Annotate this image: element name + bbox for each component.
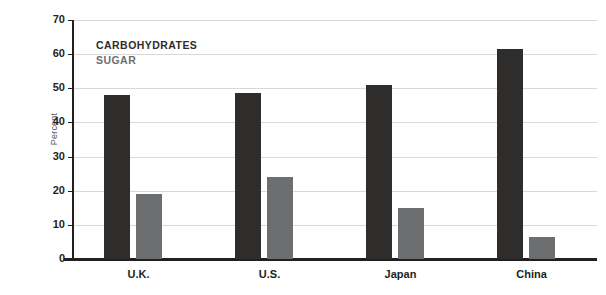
y-axis-tick-label: 40 bbox=[39, 116, 65, 127]
y-axis-tick-mark bbox=[68, 157, 74, 158]
y-axis-tick-mark bbox=[68, 88, 74, 89]
y-axis-tick-mark bbox=[68, 54, 74, 55]
y-axis-tick-mark bbox=[68, 259, 74, 260]
y-axis-line bbox=[72, 20, 74, 259]
legend: CARBOHYDRATES SUGAR bbox=[96, 38, 197, 68]
legend-item-sugar: SUGAR bbox=[96, 53, 197, 68]
y-axis-tick-label: 30 bbox=[39, 151, 65, 162]
gridline bbox=[73, 20, 597, 21]
x-axis-label-china: China bbox=[466, 268, 597, 280]
x-axis-label-uk: U.K. bbox=[73, 268, 204, 280]
x-axis-label-us: U.S. bbox=[204, 268, 335, 280]
y-axis-tick-label: 10 bbox=[39, 219, 65, 230]
bar-chart: Percent 010203040506070 U.K.U.S.JapanChi… bbox=[0, 0, 606, 295]
bar-sugar-china bbox=[529, 237, 555, 259]
bar-carbohydrates-us bbox=[235, 93, 261, 259]
y-axis-tick-mark bbox=[68, 122, 74, 123]
y-axis-tick-label: 50 bbox=[39, 82, 65, 93]
bar-sugar-japan bbox=[398, 208, 424, 259]
x-axis-label-japan: Japan bbox=[335, 268, 466, 280]
bar-sugar-uk bbox=[136, 194, 162, 259]
legend-item-carbohydrates: CARBOHYDRATES bbox=[96, 38, 197, 53]
y-axis-tick-mark bbox=[68, 225, 74, 226]
y-axis-tick-label: 0 bbox=[39, 253, 65, 264]
y-axis-tick-mark bbox=[68, 191, 74, 192]
y-axis-tick-mark bbox=[68, 20, 74, 21]
bar-sugar-us bbox=[267, 177, 293, 259]
bar-carbohydrates-china bbox=[497, 49, 523, 259]
bar-carbohydrates-japan bbox=[366, 85, 392, 259]
y-axis-tick-label: 20 bbox=[39, 185, 65, 196]
bar-carbohydrates-uk bbox=[104, 95, 130, 259]
y-axis-tick-label: 70 bbox=[39, 14, 65, 25]
y-axis-tick-label: 60 bbox=[39, 48, 65, 59]
